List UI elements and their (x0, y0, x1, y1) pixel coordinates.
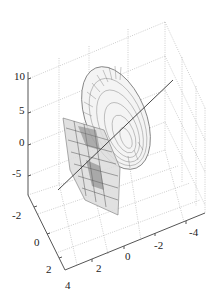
left-tick-2: 2 (46, 263, 52, 275)
right-axis-tick-labels: 2 0 -2 -4 (96, 226, 199, 274)
right-tick-0: 0 (125, 250, 131, 262)
right-tick-minus2: -2 (154, 239, 163, 251)
z-tick-10: 10 (14, 70, 26, 82)
z-tick-5: 5 (19, 104, 25, 116)
left-tick-0: 0 (34, 236, 40, 248)
left-tick-minus2: -2 (12, 209, 21, 221)
z-tick-0: 0 (19, 136, 25, 148)
z-axis-tick-labels: 10 5 0 -5 (12, 70, 26, 179)
z-tick-minus5: -5 (12, 167, 22, 179)
right-tick-minus4: -4 (189, 226, 199, 238)
surface-plot-3d: 10 5 0 -5 -2 0 2 4 2 0 -2 -4 (0, 0, 214, 304)
right-tick-2: 2 (96, 262, 102, 274)
left-tick-4: 4 (65, 279, 71, 291)
